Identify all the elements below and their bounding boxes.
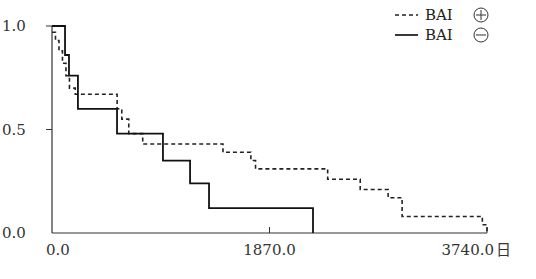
x-tick-label: 3740.0 [442, 241, 495, 259]
legend-label: BAI [425, 26, 453, 44]
y-tick-label: 1.0 [2, 17, 26, 35]
y-ticks: 0.00.51.0 [2, 17, 52, 242]
x-tick-label: 0.0 [46, 241, 70, 259]
series-group [52, 26, 487, 233]
legend-label: BAI [425, 6, 453, 24]
x-ticks: 0.01870.03740.0日 [46, 227, 511, 259]
x-tick-label: 1870.0 [243, 241, 296, 259]
y-tick-label: 0.0 [2, 224, 26, 242]
x-unit-label: 日 [496, 241, 511, 259]
kaplan-meier-chart: 0.00.51.0 0.01870.03740.0日 BAIBAI [0, 0, 536, 279]
series-bai-negative-line [52, 26, 313, 233]
y-tick-label: 0.5 [2, 121, 26, 139]
legend: BAIBAI [395, 6, 488, 44]
